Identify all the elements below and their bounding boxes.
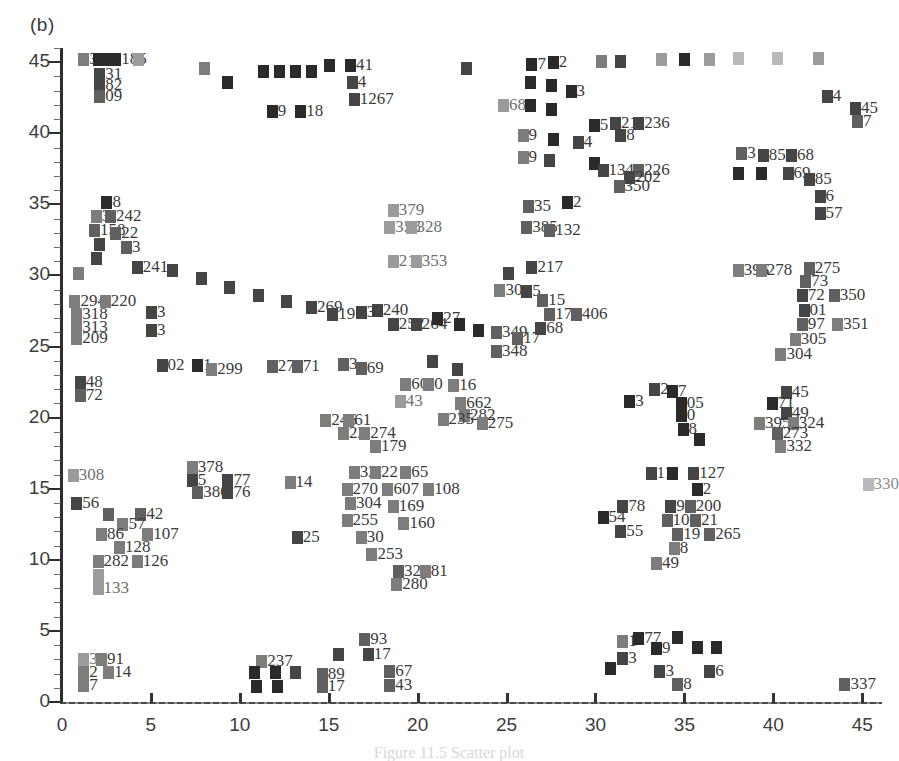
- x-axis-tick: [683, 693, 686, 703]
- data-point: [733, 167, 744, 180]
- data-point: [772, 427, 783, 440]
- data-point: [438, 413, 449, 426]
- data-point: [94, 90, 105, 103]
- data-point-label: 350: [625, 176, 651, 196]
- data-point: [432, 312, 443, 325]
- data-point: [461, 62, 472, 75]
- data-point: [320, 414, 331, 427]
- y-axis-minor-tick: [54, 389, 61, 390]
- y-axis-minor-tick: [54, 375, 61, 376]
- data-point: [813, 52, 824, 65]
- data-point: [359, 427, 370, 440]
- data-point: [829, 289, 840, 302]
- data-point-label: 55: [626, 521, 643, 541]
- data-point: [596, 55, 607, 68]
- data-point: [525, 99, 536, 112]
- data-point: [598, 164, 609, 177]
- data-point-label: 9: [662, 638, 671, 658]
- data-point: [667, 467, 678, 480]
- data-point: [338, 427, 349, 440]
- data-point-label: 9: [529, 147, 538, 167]
- data-point: [598, 511, 609, 524]
- data-point-label: 299: [217, 359, 243, 379]
- data-point-label: 308: [79, 465, 105, 485]
- y-axis-tick-label: 40: [16, 121, 50, 143]
- data-point-label: 9: [529, 125, 538, 145]
- data-point: [274, 65, 285, 78]
- x-axis-tick-label: 0: [42, 714, 82, 736]
- data-point-label: 43: [395, 675, 412, 695]
- data-point-label: 68: [546, 318, 563, 338]
- y-axis-tick-label: 20: [16, 406, 50, 428]
- data-point: [324, 59, 335, 72]
- data-point: [783, 167, 794, 180]
- data-point-label: 253: [377, 544, 403, 564]
- data-point: [815, 207, 826, 220]
- data-point: [338, 358, 349, 371]
- data-point: [78, 53, 89, 66]
- data-point-label: 57: [826, 203, 843, 223]
- data-point: [388, 255, 399, 268]
- data-point: [678, 423, 689, 436]
- data-point: [656, 53, 667, 66]
- data-point-label: 337: [850, 674, 876, 694]
- y-axis-tick: [49, 61, 61, 63]
- data-point: [797, 289, 808, 302]
- data-point: [382, 483, 393, 496]
- data-point: [78, 679, 89, 692]
- data-point: [71, 497, 82, 510]
- data-point: [75, 376, 86, 389]
- data-point-label: 351: [843, 314, 869, 334]
- data-point-label: 69: [367, 358, 384, 378]
- data-point: [649, 383, 660, 396]
- x-axis-tick-label: 20: [398, 714, 438, 736]
- data-point: [651, 642, 662, 655]
- data-point-label: 236: [644, 113, 670, 133]
- data-point-label: 133: [104, 578, 130, 598]
- data-point: [615, 525, 626, 538]
- data-point-label: 9: [278, 101, 287, 121]
- x-axis-tick: [506, 693, 509, 703]
- data-point-label: 350: [840, 285, 866, 305]
- y-axis-minor-tick: [54, 247, 61, 248]
- data-point: [388, 318, 399, 331]
- data-point: [370, 440, 381, 453]
- data-point: [349, 93, 360, 106]
- data-point: [395, 395, 406, 408]
- data-point: [617, 652, 628, 665]
- data-point: [132, 261, 143, 274]
- data-point-label: 3: [747, 143, 756, 163]
- x-axis-tick: [328, 693, 331, 703]
- data-point: [676, 409, 687, 422]
- data-point: [359, 633, 370, 646]
- data-point: [192, 359, 203, 372]
- data-point: [290, 65, 301, 78]
- data-point: [704, 665, 715, 678]
- data-point: [839, 678, 850, 691]
- y-axis-minor-tick: [54, 176, 61, 177]
- y-axis-minor-tick: [54, 105, 61, 106]
- data-point-label: 7: [863, 111, 872, 131]
- data-point: [356, 531, 367, 544]
- data-point: [756, 167, 767, 180]
- y-axis-minor-tick: [54, 574, 61, 575]
- data-point: [388, 204, 399, 217]
- y-axis-minor-tick: [54, 119, 61, 120]
- data-point: [736, 147, 747, 160]
- data-point: [852, 115, 863, 128]
- data-point-label: 126: [143, 551, 169, 571]
- y-axis-tick: [49, 203, 61, 205]
- data-point: [398, 517, 409, 530]
- data-point: [253, 289, 264, 302]
- data-point: [503, 267, 514, 280]
- y-axis-minor-tick: [54, 503, 61, 504]
- data-point: [345, 59, 356, 72]
- data-point: [566, 85, 577, 98]
- y-axis-tick: [49, 132, 61, 134]
- data-point: [523, 200, 534, 213]
- y-axis-tick-label: 15: [16, 477, 50, 499]
- data-point: [69, 295, 80, 308]
- data-point: [110, 227, 121, 240]
- data-point: [786, 149, 797, 162]
- data-point: [349, 466, 360, 479]
